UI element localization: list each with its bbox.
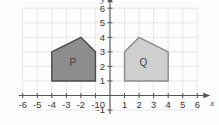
x-tick-label: -2 <box>77 99 85 110</box>
y-tick-label: 2 <box>100 61 105 72</box>
x-tick-label: 1 <box>122 99 127 110</box>
x-tick-label: 6 <box>195 99 200 110</box>
coordinate-plane-figure: PQ -6-5-4-3-2-1123456654321-10xy <box>0 0 219 125</box>
x-tick-label: -6 <box>18 99 26 110</box>
shape-label-q: Q <box>140 57 148 68</box>
x-tick-label: -4 <box>48 99 56 110</box>
axis-tick-labels: -6-5-4-3-2-1123456654321-10xy <box>18 0 214 115</box>
y-tick-label: 4 <box>100 32 105 43</box>
y-tick-label: 5 <box>100 17 105 28</box>
axes <box>19 0 211 114</box>
x-tick-label: -5 <box>33 99 41 110</box>
y-tick-label: 3 <box>100 46 105 57</box>
origin-label: 0 <box>100 99 105 110</box>
y-tick-label: 1 <box>100 75 105 86</box>
x-tick-label: 3 <box>151 99 156 110</box>
x-axis-label: x <box>209 98 214 108</box>
coordinate-plane-svg: PQ -6-5-4-3-2-1123456654321-10xy <box>0 0 219 125</box>
shape-label-p: P <box>70 57 77 68</box>
x-tick-label: 4 <box>166 99 171 110</box>
x-tick-label: 5 <box>180 99 185 110</box>
x-tick-label: -3 <box>62 99 70 110</box>
x-tick-label: 2 <box>136 99 141 110</box>
y-tick-label: 6 <box>100 3 105 14</box>
y-axis-label: y <box>100 0 105 4</box>
